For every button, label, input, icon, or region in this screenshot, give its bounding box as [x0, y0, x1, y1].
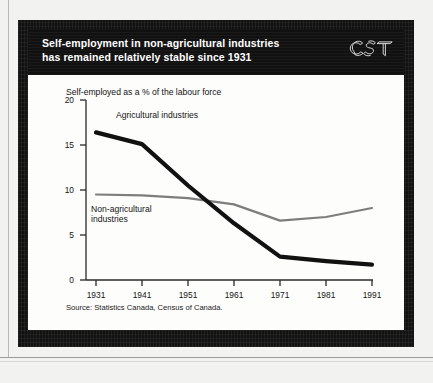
page-margin-rule: [8, 0, 9, 358]
page-title: Self-employment in non-agricultural indu…: [42, 37, 320, 64]
x-tick-1951: 1951: [179, 290, 198, 300]
annotation-nonagricultural-line1: Non-agricultural: [91, 204, 152, 214]
chart-source: Source: Statistics Canada, Census of Can…: [66, 303, 223, 312]
x-tick-1931: 1931: [87, 290, 106, 300]
figure-title-band: Self-employment in non-agricultural indu…: [28, 30, 404, 75]
y-tick-15: 15: [65, 140, 75, 150]
figure-card: Self-employment in non-agricultural indu…: [28, 30, 404, 330]
page-background: Self-employment in non-agricultural indu…: [0, 0, 433, 383]
x-tick-1991: 1991: [363, 290, 382, 300]
series-line-agricultural: [96, 132, 372, 264]
x-tick-1961: 1961: [225, 290, 244, 300]
cst-logo: [347, 39, 393, 59]
y-tick-20: 20: [65, 95, 75, 105]
annotation-agricultural: Agricultural industries: [116, 110, 198, 120]
annotation-nonagricultural-line2: industries: [91, 214, 128, 224]
x-tick-1941: 1941: [133, 290, 152, 300]
page-bottom-rule-secondary: [0, 361, 433, 362]
y-tick-0: 0: [69, 275, 74, 285]
line-chart: 20 15 10 5 0 1931 1941 1951 1961 1971 19…: [28, 75, 404, 305]
page-bottom-rule: [0, 357, 433, 358]
title-line-2: has remained relatively stable since 193…: [42, 51, 320, 65]
x-tick-1981: 1981: [317, 290, 336, 300]
figure-frame: Self-employment in non-agricultural indu…: [18, 20, 414, 347]
chart-area: Self-employed as a % of the labour force: [28, 75, 404, 330]
y-tick-10: 10: [65, 185, 75, 195]
title-line-1: Self-employment in non-agricultural indu…: [42, 37, 320, 51]
y-tick-5: 5: [69, 230, 74, 240]
x-axis-tick-labels: 1931 1941 1951 1961 1971 1981 1991: [87, 290, 382, 300]
y-axis-tick-labels: 20 15 10 5 0: [65, 95, 75, 285]
chart-axes: [80, 100, 373, 286]
x-tick-1971: 1971: [271, 290, 290, 300]
